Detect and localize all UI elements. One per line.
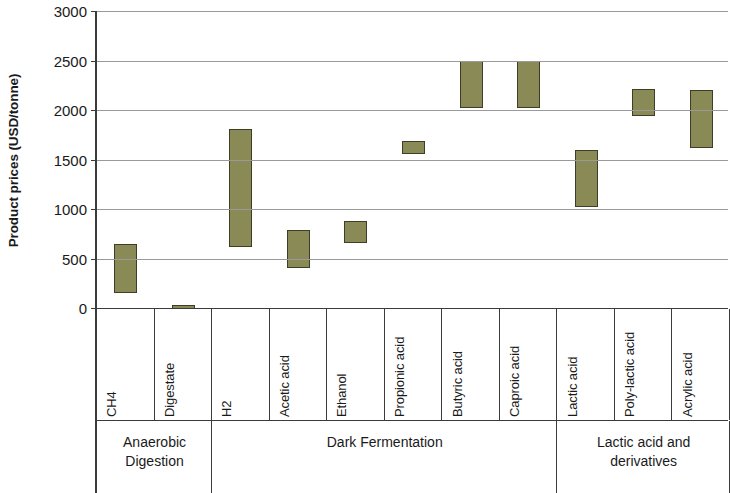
bar-acetic-acid bbox=[287, 230, 310, 269]
category-label-band: CH4DigestateH2Acetic acidEthanolPropioni… bbox=[95, 309, 728, 420]
category-label-wrap: Acetic acid bbox=[270, 313, 328, 417]
y-axis-tick-label: 3000 bbox=[54, 3, 87, 20]
group-label: Dark Fermentation bbox=[327, 433, 443, 452]
group-label: Lactic acid and derivatives bbox=[597, 433, 690, 471]
y-axis-tick-label: 500 bbox=[62, 250, 87, 267]
y-axis-tick-mark bbox=[91, 209, 97, 210]
category-label-wrap: Caproic acid bbox=[500, 313, 558, 417]
category-label-wrap: Lactic acid bbox=[557, 313, 615, 417]
category-cell: Lactic acid bbox=[557, 309, 615, 420]
group-cell: Dark Fermentation bbox=[212, 421, 557, 493]
y-axis-tick-label: 2000 bbox=[54, 102, 87, 119]
category-label-wrap: Poly-lactic acid bbox=[615, 313, 673, 417]
category-cell: Propionic acid bbox=[385, 309, 443, 420]
category-cell: Acetic acid bbox=[270, 309, 328, 420]
y-axis-tick-mark bbox=[91, 110, 97, 111]
y-axis-tick-label: 1000 bbox=[54, 201, 87, 218]
category-cell: Digestate bbox=[155, 309, 213, 420]
bar-poly-lactic-acid bbox=[632, 89, 655, 116]
category-label: Acetic acid bbox=[277, 355, 292, 417]
bar-butyric-acid bbox=[460, 61, 483, 109]
category-label: Butyric acid bbox=[450, 351, 465, 417]
category-cell: H2 bbox=[212, 309, 270, 420]
category-label-wrap: Ethanol bbox=[327, 313, 385, 417]
y-axis-tick-mark bbox=[91, 160, 97, 161]
y-axis-title-text: Product prices (USD/tonne) bbox=[7, 73, 22, 247]
category-cell: CH4 bbox=[97, 309, 155, 420]
gridline bbox=[97, 259, 728, 260]
category-label-wrap: H2 bbox=[212, 313, 270, 417]
category-label-wrap: Butyric acid bbox=[442, 313, 500, 417]
category-cell: Acrylic acid bbox=[672, 309, 730, 420]
bar-ethanol bbox=[344, 221, 367, 243]
category-label: Acrylic acid bbox=[680, 352, 695, 417]
gridline bbox=[97, 160, 728, 161]
category-cell: Poly-lactic acid bbox=[615, 309, 673, 420]
group-cell: Lactic acid and derivatives bbox=[557, 421, 730, 493]
category-label-wrap: Propionic acid bbox=[385, 313, 443, 417]
bar-acrylic-acid bbox=[690, 90, 713, 147]
category-label: Caproic acid bbox=[507, 346, 522, 417]
category-label: Poly-lactic acid bbox=[622, 332, 637, 417]
gridline bbox=[97, 61, 728, 62]
y-axis-tick-mark bbox=[91, 61, 97, 62]
gridline bbox=[97, 110, 728, 111]
bar-ch4 bbox=[114, 244, 137, 294]
category-label-wrap: Digestate bbox=[155, 313, 213, 417]
category-cell: Caproic acid bbox=[500, 309, 558, 420]
plot-area bbox=[95, 11, 728, 308]
category-label: Propionic acid bbox=[392, 337, 407, 417]
category-label-wrap: CH4 bbox=[97, 313, 155, 417]
category-label: Digestate bbox=[162, 363, 177, 417]
y-axis-tick-mark bbox=[91, 11, 97, 12]
group-cell: Anaerobic Digestion bbox=[97, 421, 212, 493]
group-label-band: Anaerobic DigestionDark FermentationLact… bbox=[95, 420, 728, 493]
category-cell: Butyric acid bbox=[442, 309, 500, 420]
y-axis-tick-labels: 050010001500200025003000 bbox=[28, 0, 95, 320]
category-label-wrap: Acrylic acid bbox=[672, 313, 730, 417]
y-axis-tick-label: 0 bbox=[79, 300, 87, 317]
category-label: H2 bbox=[219, 401, 234, 417]
bar-lactic-acid bbox=[575, 150, 598, 207]
group-label: Anaerobic Digestion bbox=[123, 433, 186, 471]
y-axis-tick-label: 1500 bbox=[54, 151, 87, 168]
category-cell: Ethanol bbox=[327, 309, 385, 420]
bar-caproic-acid bbox=[517, 61, 540, 109]
category-label: Ethanol bbox=[334, 374, 349, 417]
bar-h2 bbox=[229, 129, 252, 247]
category-label: Lactic acid bbox=[565, 357, 580, 417]
bar-propionic-acid bbox=[402, 141, 425, 154]
y-axis-title: Product prices (USD/tonne) bbox=[0, 0, 28, 320]
gridline bbox=[97, 209, 728, 210]
y-axis-tick-mark bbox=[91, 259, 97, 260]
category-label: CH4 bbox=[104, 391, 119, 417]
y-axis-tick-label: 2500 bbox=[54, 52, 87, 69]
gridline bbox=[97, 11, 728, 12]
